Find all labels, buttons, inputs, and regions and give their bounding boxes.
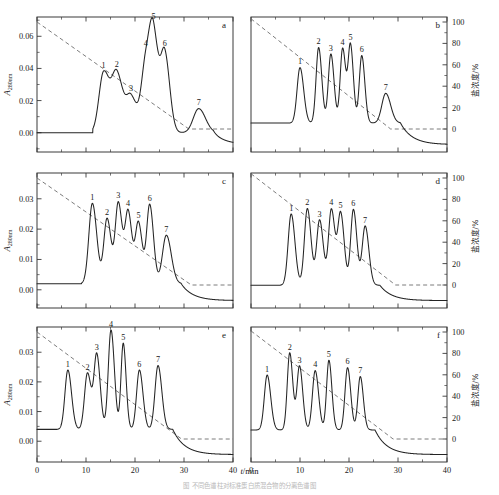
svg-text:0.01: 0.01	[19, 255, 34, 264]
svg-text:e: e	[222, 330, 226, 340]
svg-text:0.00: 0.00	[19, 437, 34, 446]
gradient-line-e	[37, 332, 233, 439]
svg-text:A280nm: A280nm	[2, 383, 13, 406]
peak-label-c-3: 3	[116, 191, 120, 200]
svg-text:f: f	[437, 330, 440, 340]
peak-label-e-1: 1	[66, 360, 70, 369]
peak-label-a-4: 4	[144, 39, 148, 48]
peak-label-f-4: 4	[313, 360, 317, 369]
gradient-line-d	[251, 174, 447, 285]
svg-text:100: 100	[452, 328, 464, 337]
peak-label-d-2: 2	[305, 198, 309, 207]
svg-text:0.00: 0.00	[19, 286, 34, 295]
peak-label-b-2: 2	[317, 37, 321, 46]
peak-label-e-4: 4	[109, 320, 113, 329]
peak-label-f-7: 7	[358, 366, 362, 375]
svg-text:盐浓度/%: 盐浓度/%	[470, 220, 480, 254]
peak-label-b-7: 7	[384, 83, 388, 92]
peak-label-f-3: 3	[297, 356, 301, 365]
peak-label-d-4: 4	[329, 198, 333, 207]
svg-text:d: d	[436, 176, 441, 186]
svg-text:60: 60	[452, 217, 460, 226]
svg-text:40: 40	[452, 82, 460, 91]
chromatogram-trace-f	[251, 353, 447, 455]
svg-text:0.02: 0.02	[19, 97, 34, 106]
peak-label-b-3: 3	[329, 44, 333, 53]
svg-text:20: 20	[452, 104, 460, 113]
svg-text:0.04: 0.04	[19, 64, 34, 73]
svg-text:60: 60	[452, 371, 460, 380]
peak-label-a-3: 3	[129, 84, 133, 93]
peak-label-b-5: 5	[348, 33, 352, 42]
gradient-line-c	[37, 178, 233, 285]
peak-label-a-2: 2	[115, 60, 119, 69]
peak-label-d-3: 3	[318, 210, 322, 219]
peak-label-a-7: 7	[197, 98, 201, 107]
peak-label-c-2: 2	[105, 208, 109, 217]
svg-text:80: 80	[452, 39, 460, 48]
svg-text:40: 40	[452, 392, 460, 401]
peak-label-c-6: 6	[148, 194, 152, 203]
svg-text:0.02: 0.02	[19, 378, 34, 387]
peak-label-a-6: 6	[163, 39, 167, 48]
svg-text:0.03: 0.03	[19, 195, 34, 204]
svg-text:20: 20	[452, 414, 460, 423]
peak-label-b-6: 6	[360, 45, 364, 54]
svg-text:0.03: 0.03	[19, 348, 34, 357]
peak-label-d-7: 7	[363, 216, 367, 225]
svg-text:0.01: 0.01	[19, 408, 34, 417]
svg-text:a: a	[222, 20, 226, 30]
peak-label-f-5: 5	[327, 350, 331, 359]
peak-label-c-4: 4	[126, 199, 130, 208]
peak-label-e-5: 5	[121, 333, 125, 342]
peak-label-d-5: 5	[339, 201, 343, 210]
peak-label-b-1: 1	[298, 57, 302, 66]
peak-label-c-1: 1	[90, 193, 94, 202]
peak-label-e-2: 2	[85, 363, 89, 372]
peak-label-f-1: 1	[265, 365, 269, 374]
peak-label-f-2: 2	[288, 343, 292, 352]
chromatogram-trace-e	[37, 330, 233, 454]
gradient-line-a	[37, 22, 233, 129]
svg-text:盐浓度/%: 盐浓度/%	[470, 64, 480, 98]
svg-text:60: 60	[452, 61, 460, 70]
peak-label-d-1: 1	[289, 204, 293, 213]
peak-label-e-6: 6	[137, 360, 141, 369]
svg-text:0: 0	[452, 281, 456, 290]
svg-text:b: b	[436, 20, 441, 30]
svg-text:40: 40	[452, 238, 460, 247]
peak-label-c-7: 7	[164, 225, 168, 234]
svg-text:c: c	[222, 176, 226, 186]
chromatogram-trace-c	[37, 202, 233, 301]
chromatogram-trace-d	[251, 208, 447, 300]
chromatogram-trace-b	[251, 43, 447, 144]
chromatogram-figure: 0.000.020.040.06a1234567A280nm0204060801…	[0, 0, 499, 495]
peak-label-a-5: 5	[152, 12, 156, 21]
peak-label-d-6: 6	[351, 199, 355, 208]
peak-label-e-3: 3	[95, 343, 99, 352]
svg-text:盐浓度/%: 盐浓度/%	[470, 374, 480, 408]
gradient-line-f	[251, 331, 447, 439]
svg-text:A280nm: A280nm	[2, 73, 13, 96]
peak-label-b-4: 4	[341, 38, 345, 47]
svg-text:0: 0	[452, 435, 456, 444]
svg-text:100: 100	[452, 174, 464, 183]
svg-text:80: 80	[452, 349, 460, 358]
svg-text:A280nm: A280nm	[2, 229, 13, 252]
svg-text:100: 100	[452, 18, 464, 27]
svg-text:0.02: 0.02	[19, 225, 34, 234]
peak-label-f-6: 6	[345, 357, 349, 366]
svg-text:0.06: 0.06	[19, 32, 34, 41]
chromatogram-trace-a	[37, 18, 233, 143]
peak-label-c-5: 5	[136, 211, 140, 220]
peak-label-e-7: 7	[156, 355, 160, 364]
svg-text:0: 0	[452, 125, 456, 134]
x-axis-title: t/min	[0, 466, 499, 476]
svg-text:20: 20	[452, 260, 460, 269]
peak-label-a-1: 1	[102, 61, 106, 70]
figure-caption: 图 不同色谱柱对标准蛋白质混合物的分离色谱图	[0, 481, 499, 490]
svg-text:80: 80	[452, 195, 460, 204]
gradient-line-b	[251, 19, 447, 129]
svg-text:0.00: 0.00	[19, 129, 34, 138]
